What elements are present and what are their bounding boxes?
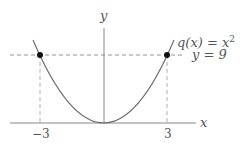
hline-label: y = 9 bbox=[191, 47, 227, 62]
y-axis-label: y bbox=[99, 8, 108, 23]
point-neg3 bbox=[37, 52, 43, 58]
x-axis-label: x bbox=[200, 115, 208, 130]
tick-3: 3 bbox=[164, 127, 172, 141]
point-3 bbox=[164, 52, 170, 58]
tick-neg3: −3 bbox=[32, 127, 50, 141]
chart: x y q(x) = x2 y = 9 −3 3 bbox=[0, 0, 243, 148]
